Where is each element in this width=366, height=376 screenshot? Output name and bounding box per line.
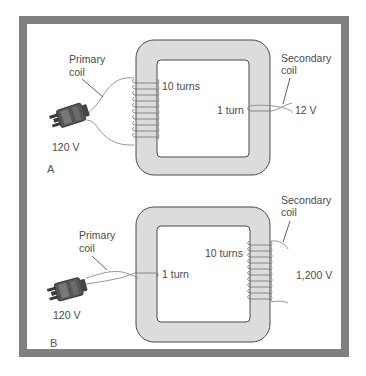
primary-turns-label-b: 1 turn (162, 268, 189, 280)
primary-coil-label-a-line1: Primary (69, 53, 106, 65)
primary-coil-label-b-line2: coil (79, 242, 95, 254)
primary-leader-a (82, 79, 103, 97)
power-plug-b (46, 276, 88, 303)
power-plug-a (48, 101, 91, 130)
primary-lead-top-a (86, 78, 134, 115)
secondary-voltage-a: 12 V (295, 104, 317, 116)
panel-label-b: B (50, 337, 57, 349)
primary-voltage-a: 120 V (52, 141, 79, 153)
transformer-diagram: Primary coil 10 turns 120 V 1 turn 12 V … (0, 0, 366, 376)
secondary-lead-bottom-b (271, 301, 288, 303)
secondary-lead-top-b (271, 241, 288, 249)
primary-turns-label-a: 10 turns (162, 80, 200, 92)
primary-coil-label-a-line2: coil (69, 66, 85, 78)
panel-label-a: A (47, 163, 55, 175)
primary-lead-bottom-a (86, 120, 134, 145)
primary-voltage-b: 120 V (53, 309, 80, 321)
secondary-coil-label-b-line2: coil (281, 206, 297, 218)
secondary-turns-label-b: 10 turns (205, 247, 243, 259)
secondary-coil-label-a-line1: Secondary (281, 52, 332, 64)
primary-leader-b (92, 256, 107, 270)
panel-b: Primary coil 1 turn 120 V 10 turns 1,200… (46, 194, 332, 349)
secondary-coil-label-a-line2: coil (281, 64, 297, 76)
secondary-leader-a (283, 78, 290, 104)
secondary-leader-b (283, 221, 290, 242)
primary-lead-b (86, 271, 138, 284)
panel-a: Primary coil 10 turns 120 V 1 turn 12 V … (47, 40, 332, 175)
secondary-turns-label-a: 1 turn (217, 104, 244, 116)
primary-coil-label-b-line1: Primary (79, 229, 116, 241)
secondary-voltage-b: 1,200 V (296, 269, 332, 281)
secondary-coil-label-b-line1: Secondary (281, 194, 332, 206)
